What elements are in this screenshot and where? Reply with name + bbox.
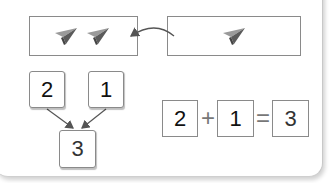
bond-part-a-value: 2 bbox=[41, 77, 53, 103]
bond-part-a: 2 bbox=[29, 71, 65, 108]
bond-arrow-left bbox=[47, 109, 73, 128]
equation-term-b-value: 1 bbox=[229, 106, 241, 132]
equation-term-a: 2 bbox=[162, 100, 198, 137]
bond-whole-value: 3 bbox=[71, 136, 83, 162]
equals-sign: = bbox=[256, 106, 270, 130]
bond-part-b-value: 1 bbox=[100, 77, 112, 103]
bond-part-b: 1 bbox=[88, 71, 124, 108]
equation-result-value: 3 bbox=[284, 106, 296, 132]
plus-sign: + bbox=[201, 106, 215, 130]
curved-arrow-icon bbox=[131, 28, 174, 36]
equation-term-a-value: 2 bbox=[174, 106, 186, 132]
equation-term-b: 1 bbox=[217, 100, 254, 137]
bond-whole: 3 bbox=[59, 130, 96, 168]
bond-arrow-right bbox=[82, 109, 106, 128]
equation-result: 3 bbox=[272, 100, 309, 137]
